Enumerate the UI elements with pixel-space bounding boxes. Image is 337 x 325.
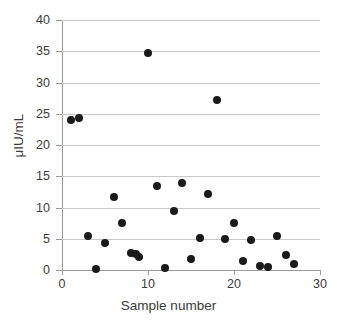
x-tick-label-30: 30	[300, 278, 337, 291]
data-point	[290, 260, 298, 268]
data-point	[75, 114, 83, 122]
data-point	[239, 257, 247, 265]
y-tick-label-30: 30	[22, 77, 50, 90]
x-tick-label-10: 10	[128, 278, 168, 291]
y-axis-title: μIU/mL	[11, 76, 26, 196]
y-tick-label-15: 15	[22, 170, 50, 183]
x-tick-label-20: 20	[214, 278, 254, 291]
data-point	[187, 255, 195, 263]
data-point	[221, 235, 229, 243]
data-point	[204, 190, 212, 198]
x-tick-20	[234, 270, 235, 275]
data-point	[273, 232, 281, 240]
data-point	[118, 219, 126, 227]
y-tick-label-0: 0	[22, 264, 50, 277]
data-point	[178, 179, 186, 187]
data-point	[247, 236, 255, 244]
data-point	[153, 182, 161, 190]
y-tick-label-25: 25	[22, 108, 50, 121]
y-tick-label-35: 35	[22, 45, 50, 58]
data-point	[213, 96, 221, 104]
data-point	[196, 234, 204, 242]
data-point	[161, 264, 169, 272]
data-point	[282, 251, 290, 259]
scatter-chart: 0510152025303540 0102030 μIU/mL Sample n…	[0, 0, 337, 325]
x-tick-0	[62, 270, 63, 275]
data-point	[135, 253, 143, 261]
y-tick-label-10: 10	[22, 202, 50, 215]
x-axis-line	[62, 270, 320, 271]
data-point	[144, 49, 152, 57]
plot-area	[62, 20, 320, 270]
x-tick-label-0: 0	[42, 278, 82, 291]
y-tick-label-20: 20	[22, 139, 50, 152]
data-point	[67, 116, 75, 124]
data-point	[264, 263, 272, 271]
data-point	[170, 207, 178, 215]
data-point	[256, 262, 264, 270]
x-tick-30	[320, 270, 321, 275]
x-tick-10	[148, 270, 149, 275]
data-point	[84, 232, 92, 240]
y-tick-label-40: 40	[22, 14, 50, 27]
x-axis-title: Sample number	[0, 298, 337, 313]
y-tick-label-5: 5	[22, 233, 50, 246]
data-point	[101, 239, 109, 247]
data-point	[230, 219, 238, 227]
data-point	[110, 193, 118, 201]
data-point	[92, 265, 100, 273]
